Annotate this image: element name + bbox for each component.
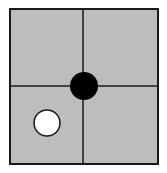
black-stone [70, 72, 98, 100]
white-stone [34, 110, 60, 136]
go-board-diagram [0, 0, 167, 173]
